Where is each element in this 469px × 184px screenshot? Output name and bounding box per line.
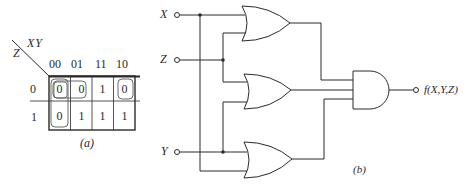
caption-b: (b): [353, 163, 366, 175]
input-terminal-x: [175, 13, 180, 18]
output-terminal: [414, 88, 419, 93]
or-gate-2: [244, 74, 291, 109]
input-terminal-y: [175, 150, 180, 155]
input-terminal-z: [175, 58, 180, 63]
input-label-y: Y: [161, 144, 168, 159]
or-gate-3: [244, 142, 292, 178]
input-label-x: X: [160, 7, 167, 22]
output-label: f(X,Y,Z): [424, 83, 458, 95]
and-gate: [353, 71, 389, 109]
input-label-z: Z: [160, 52, 167, 67]
or-gate-1: [242, 6, 290, 41]
circuit-wires: [0, 0, 469, 184]
